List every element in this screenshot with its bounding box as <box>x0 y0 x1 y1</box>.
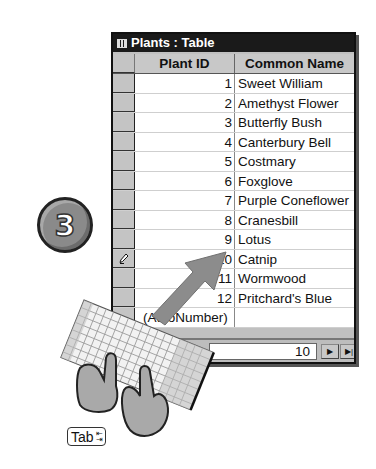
cell-plant-id-autonumber[interactable]: (AutoNumber) <box>135 308 235 327</box>
previous-record-icon: ◀ <box>180 347 186 356</box>
cell-common-name[interactable]: Foxglove <box>235 172 354 191</box>
select-all-corner[interactable] <box>113 54 135 73</box>
table-row-editing[interactable]: 10 Catnip <box>113 250 354 270</box>
right-hand-icon <box>122 366 168 436</box>
new-record-row[interactable]: (AutoNumber) <box>113 308 354 328</box>
row-selector[interactable] <box>113 289 135 308</box>
record-navigation: Record: |◀ ◀ 10 ▶ ▶| ▶* <box>113 338 354 362</box>
header-row: Plant ID Common Name <box>113 54 354 74</box>
record-label: Record: <box>113 345 155 357</box>
table-row[interactable]: 1 Sweet William <box>113 74 354 94</box>
cell-common-name[interactable]: Costmary <box>235 152 354 171</box>
row-selector[interactable] <box>113 74 135 93</box>
table-row[interactable]: 3 Butterfly Bush <box>113 113 354 133</box>
next-record-button[interactable]: ▶ <box>321 344 339 359</box>
cell-plant-id[interactable]: 11 <box>135 269 235 288</box>
first-record-icon: |◀ <box>160 347 168 356</box>
cell-common-name[interactable]: Wormwood <box>235 269 354 288</box>
row-selector[interactable] <box>113 113 135 132</box>
cell-plant-id[interactable]: 9 <box>135 230 235 249</box>
cell-common-name-new[interactable] <box>235 308 354 327</box>
cell-plant-id[interactable]: 1 <box>135 74 235 93</box>
cell-common-name[interactable]: Catnip <box>235 250 354 269</box>
cell-common-name[interactable]: Butterfly Bush <box>235 113 354 132</box>
row-selector[interactable] <box>113 230 135 249</box>
cell-plant-id[interactable]: 10 <box>135 250 235 269</box>
step-number-badge: 3 <box>37 197 93 253</box>
table-row[interactable]: 6 Foxglove <box>113 172 354 192</box>
pencil-icon <box>119 253 129 264</box>
cell-common-name[interactable]: Amethyst Flower <box>235 94 354 113</box>
row-selector[interactable] <box>113 211 135 230</box>
cell-plant-id[interactable]: 12 <box>135 289 235 308</box>
table-row[interactable]: 2 Amethyst Flower <box>113 94 354 114</box>
row-selector[interactable] <box>113 191 135 210</box>
column-header-common-name[interactable]: Common Name <box>235 54 354 73</box>
cell-common-name[interactable]: Purple Coneflower <box>235 191 354 210</box>
cell-common-name[interactable]: Canterbury Bell <box>235 133 354 152</box>
row-selector-editing[interactable] <box>113 250 135 269</box>
previous-record-button[interactable]: ◀ <box>174 344 192 359</box>
cell-plant-id[interactable]: 3 <box>135 113 235 132</box>
current-record-field[interactable]: 10 <box>209 343 317 360</box>
cell-common-name[interactable]: Lotus <box>235 230 354 249</box>
table-row[interactable]: 5 Costmary <box>113 152 354 172</box>
first-record-button[interactable]: |◀ <box>155 344 173 359</box>
table-row[interactable]: 7 Purple Coneflower <box>113 191 354 211</box>
cell-plant-id[interactable]: 6 <box>135 172 235 191</box>
table-row[interactable]: 4 Canterbury Bell <box>113 133 354 153</box>
table-row[interactable]: 8 Cranesbill <box>113 211 354 231</box>
cell-plant-id[interactable]: 2 <box>135 94 235 113</box>
datasheet-grid: Plant ID Common Name 1 Sweet William 2 A… <box>113 54 354 328</box>
row-selector[interactable] <box>113 94 135 113</box>
datasheet-icon <box>117 39 127 48</box>
column-header-plant-id[interactable]: Plant ID <box>135 54 235 73</box>
last-record-button[interactable]: ▶| <box>340 344 356 359</box>
row-selector-new[interactable] <box>113 308 135 327</box>
cell-common-name[interactable]: Sweet William <box>235 74 354 93</box>
cell-plant-id[interactable]: 5 <box>135 152 235 171</box>
cell-plant-id[interactable]: 8 <box>135 211 235 230</box>
row-selector[interactable] <box>113 172 135 191</box>
row-selector[interactable] <box>113 133 135 152</box>
table-row[interactable]: 12 Pritchard's Blue <box>113 289 354 309</box>
window-title: Plants : Table <box>131 34 215 52</box>
step-number: 3 <box>55 208 76 243</box>
tab-arrows-icon: ⇤⇥ <box>96 431 103 443</box>
cell-common-name[interactable]: Pritchard's Blue <box>235 289 354 308</box>
next-record-icon: ▶ <box>327 347 333 356</box>
table-row[interactable]: 9 Lotus <box>113 230 354 250</box>
window-titlebar[interactable]: Plants : Table <box>113 34 354 52</box>
cell-plant-id[interactable]: 4 <box>135 133 235 152</box>
cell-common-name[interactable]: Cranesbill <box>235 211 354 230</box>
table-window: Plants : Table Plant ID Common Name 1 Sw… <box>111 32 356 364</box>
row-selector[interactable] <box>113 269 135 288</box>
table-row[interactable]: 11 Wormwood <box>113 269 354 289</box>
tab-key-label: Tab <box>71 429 94 445</box>
cell-plant-id[interactable]: 7 <box>135 191 235 210</box>
last-record-icon: ▶| <box>345 347 353 356</box>
tab-key-hint: Tab ⇤⇥ <box>67 427 106 446</box>
row-selector[interactable] <box>113 152 135 171</box>
